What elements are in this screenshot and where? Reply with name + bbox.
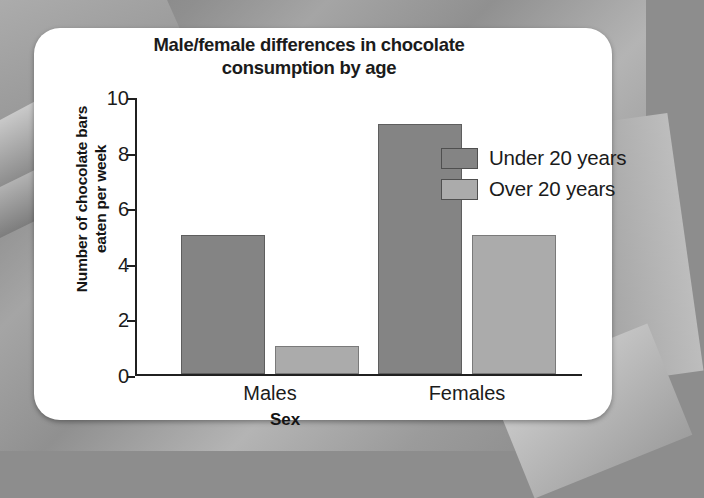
- x-axis-line: [135, 374, 582, 376]
- plot-area: 0 2 4 6 8 10 Males Females Sex: [135, 98, 582, 376]
- x-category-label-males: Males: [170, 382, 370, 405]
- y-tick-label: 0: [118, 365, 129, 388]
- bar-males-over-20: [275, 346, 359, 374]
- legend-swatch-icon-over-20: [441, 179, 478, 200]
- chart-title: Male/female differences in chocolate con…: [74, 34, 544, 79]
- legend-label-over-20: Over 20 years: [489, 177, 615, 201]
- legend-item-over-20: Over 20 years: [441, 177, 626, 201]
- y-axis-label-line-1: Number of chocolate bars: [73, 49, 92, 349]
- chart-title-line-1: Male/female differences in chocolate: [74, 34, 544, 57]
- y-axis-line: [135, 98, 137, 376]
- y-axis-label: Number of chocolate bars eaten per week: [73, 49, 111, 349]
- x-axis-label: Sex: [135, 410, 435, 430]
- y-tick-label: 2: [118, 309, 129, 332]
- legend-item-under-20: Under 20 years: [441, 146, 626, 170]
- bar-females-over-20: [472, 235, 556, 374]
- chart-title-line-2: consumption by age: [74, 57, 544, 80]
- y-tick-label: 8: [118, 143, 129, 166]
- x-category-label-females: Females: [367, 382, 567, 405]
- legend-label-under-20: Under 20 years: [489, 146, 626, 170]
- y-tick-label: 4: [118, 254, 129, 277]
- legend-swatch-icon-under-20: [441, 148, 478, 169]
- y-tick-label: 6: [118, 198, 129, 221]
- y-tick-label: 10: [107, 87, 129, 110]
- bar-males-under-20: [181, 235, 265, 374]
- chart-card: Male/female differences in chocolate con…: [34, 28, 612, 420]
- chart-legend: Under 20 years Over 20 years: [441, 146, 626, 201]
